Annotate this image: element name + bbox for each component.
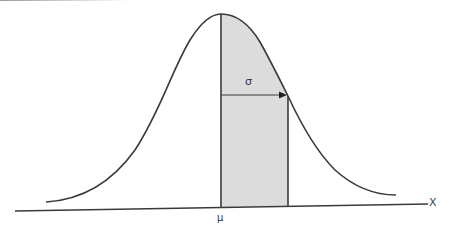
x-axis-label: X	[429, 197, 437, 208]
shaded-region	[221, 14, 288, 207]
mu-label: μ	[217, 213, 223, 223]
normal-distribution-diagram	[0, 0, 449, 238]
sigma-label: σ	[245, 76, 252, 87]
